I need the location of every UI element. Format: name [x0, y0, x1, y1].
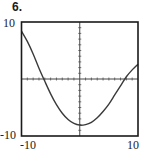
graph-plot — [0, 0, 141, 155]
